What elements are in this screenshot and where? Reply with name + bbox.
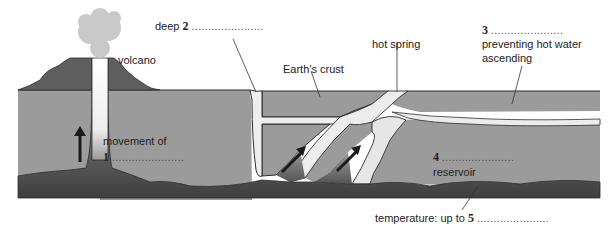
answer-blank-1[interactable]: ...................... [112, 152, 184, 163]
answer-blank-3[interactable]: ...................... [491, 25, 563, 36]
question-number-3: 3 [482, 23, 488, 37]
label-temperature: temperature: up to 5 ...................… [375, 211, 549, 226]
label-deep-2: deep 2 ...................... [155, 19, 264, 34]
label-preventing-line1: preventing hot water [482, 37, 582, 51]
label-movement-of: movement of [103, 134, 167, 148]
question-number-2: 2 [183, 19, 189, 33]
label-hot-spring: hot spring [372, 37, 420, 51]
answer-blank-4[interactable]: ...................... [442, 152, 514, 163]
smoke-plume [78, 8, 121, 58]
question-number-1: 1 [103, 150, 109, 164]
label-preventing-line2: ascending [482, 51, 532, 65]
geothermal-diagram: volcano deep 2 ...................... Ea… [0, 0, 614, 236]
label-q4: 4 ...................... [433, 150, 514, 165]
label-earths-crust: Earth’s crust [283, 62, 344, 76]
label-reservoir: reservoir [433, 165, 476, 179]
answer-blank-2[interactable]: ...................... [192, 21, 264, 32]
label-q1: 1 ...................... [103, 150, 184, 165]
label-temperature-prefix: temperature: up to [375, 212, 465, 224]
label-volcano: volcano [118, 53, 156, 67]
label-deep-prefix: deep [155, 20, 179, 32]
label-q3: 3 ...................... [482, 23, 563, 38]
question-number-4: 4 [433, 150, 439, 164]
question-number-5: 5 [468, 211, 474, 225]
answer-blank-5[interactable]: ...................... [477, 213, 549, 224]
